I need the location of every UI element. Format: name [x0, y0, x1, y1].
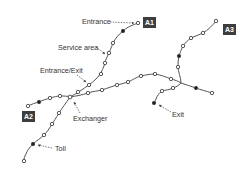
node-toll — [37, 100, 40, 103]
node-interchange — [86, 91, 89, 94]
node-interchange — [48, 96, 51, 99]
route-exit-branch — [154, 83, 181, 103]
route-a2-east — [28, 74, 212, 106]
badge-a3: A3 — [223, 24, 236, 35]
node-interchange — [42, 133, 45, 136]
node-end — [214, 19, 217, 22]
node-interchange — [57, 111, 60, 114]
node-end — [22, 159, 25, 162]
node-toll — [121, 29, 124, 32]
label-service-area: Service area — [58, 44, 98, 51]
highway-network-diagram — [0, 0, 246, 178]
node-entrance — [136, 21, 139, 24]
node-service-area — [107, 51, 110, 54]
node-interchange — [169, 77, 172, 80]
badge-a1: A1 — [143, 17, 156, 28]
arrow-exit — [159, 105, 171, 112]
arrow-entrance-exit — [77, 75, 86, 82]
node-interchange — [139, 74, 142, 77]
node-interchange — [171, 86, 174, 89]
node-exit — [152, 101, 155, 104]
badge-a2: A2 — [22, 111, 35, 122]
node-interchange — [103, 61, 106, 64]
node-end — [26, 104, 29, 107]
arrow-entrance — [110, 22, 134, 23]
node-toll — [31, 142, 34, 145]
node-interchange — [126, 80, 129, 83]
callout-arrows — [38, 22, 171, 148]
node-interchange — [76, 90, 79, 93]
node-interchange — [201, 31, 204, 34]
node-interchange — [50, 122, 53, 125]
label-entrance-exit: Entrance/Exit — [40, 67, 83, 74]
node-exchanger — [68, 95, 72, 99]
label-toll: Toll — [55, 145, 66, 152]
node-entrance-exit — [87, 83, 90, 86]
node-interchange — [189, 36, 192, 39]
label-exchanger: Exchanger — [73, 115, 107, 122]
node-interchange — [58, 94, 61, 97]
node-interchange — [181, 44, 184, 47]
node-interchange — [176, 65, 179, 68]
node-interchange — [100, 88, 103, 91]
node-toll — [194, 86, 197, 89]
arrow-exchanger — [74, 102, 80, 113]
route-a3 — [178, 21, 216, 83]
arrow-toll — [38, 145, 52, 148]
node-interchange — [111, 41, 114, 44]
node-interchange — [153, 72, 156, 75]
node-interchange — [115, 83, 118, 86]
node-end — [210, 91, 213, 94]
node-toll — [177, 54, 180, 57]
label-exit: Exit — [172, 111, 184, 118]
node-interchange — [99, 72, 102, 75]
route-nodes — [22, 19, 217, 162]
node-interchange — [160, 89, 163, 92]
label-entrance: Entrance — [82, 18, 111, 25]
